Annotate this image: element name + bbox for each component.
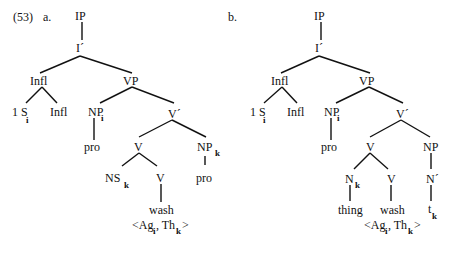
- svg-text:>: >: [182, 218, 189, 232]
- node-pro-subject: pro: [84, 140, 100, 154]
- node-ip: IP: [314, 9, 325, 23]
- node-np-subject-index: i: [337, 113, 340, 123]
- node-n-index: k: [355, 180, 360, 190]
- node-vp: VP: [123, 74, 139, 88]
- svg-text:<Ag: <Ag: [132, 218, 153, 232]
- node-np-object: NP: [197, 140, 213, 154]
- node-v-head: V: [156, 171, 165, 185]
- tree-b: b. IP I´ Infl VP 1 S i Infl NP i V´ pro …: [228, 9, 439, 236]
- node-infl: Infl: [30, 74, 48, 88]
- node-wash: wash: [380, 203, 405, 217]
- node-ns-index: k: [124, 180, 129, 190]
- node-ip: IP: [75, 9, 86, 23]
- node-v-head: V: [387, 172, 396, 186]
- node-v: V: [134, 140, 143, 154]
- svg-text:k: k: [408, 226, 413, 236]
- syntax-tree-figure: (53) a. IP I´ Infl VP 1 S i Infl NP i V´…: [0, 0, 453, 254]
- theta-grid: <Ag i , Th k >: [364, 218, 421, 236]
- node-vbar: V´: [396, 107, 409, 121]
- tree-a: (53) a. IP I´ Infl VP 1 S i Infl NP i V´…: [12, 9, 220, 236]
- node-nbar: N´: [426, 172, 439, 186]
- node-np-object: NP: [423, 140, 439, 154]
- tree-b-label: b.: [228, 10, 237, 24]
- node-infl-head: Infl: [287, 105, 305, 119]
- svg-text:k: k: [176, 226, 181, 236]
- node-vbar: V´: [168, 107, 181, 121]
- node-ibar: I´: [315, 41, 323, 55]
- tree-a-label: a.: [43, 10, 51, 24]
- node-vp: VP: [359, 74, 375, 88]
- theta-grid: <Ag i , Th k >: [132, 218, 189, 236]
- node-trace-index: k: [432, 211, 437, 221]
- svg-text:, Th: , Th: [156, 218, 175, 232]
- node-np-object-index: k: [215, 148, 220, 158]
- node-ibar: I´: [76, 41, 84, 55]
- svg-text:, Th: , Th: [388, 218, 407, 232]
- svg-text:>: >: [414, 218, 421, 232]
- node-pro-subject: pro: [321, 140, 337, 154]
- node-v: V: [366, 140, 375, 154]
- node-ns: NS: [105, 171, 120, 185]
- node-1s-index: i: [26, 115, 29, 125]
- node-infl-head: Infl: [50, 105, 68, 119]
- svg-text:<Ag: <Ag: [364, 218, 385, 232]
- node-infl: Infl: [271, 74, 289, 88]
- example-number: (53): [13, 10, 33, 24]
- node-pro-object: pro: [196, 171, 212, 185]
- node-thing: thing: [338, 203, 363, 217]
- node-n: N: [345, 172, 354, 186]
- node-np-subject-index: i: [101, 113, 104, 123]
- node-wash: wash: [149, 203, 174, 217]
